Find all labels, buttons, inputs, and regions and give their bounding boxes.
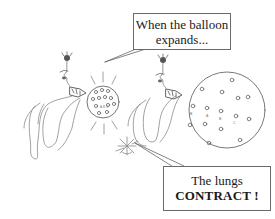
- left-person-figure: [24, 52, 86, 159]
- svg-text:B: B: [190, 112, 193, 116]
- contract-burst: [116, 137, 138, 155]
- expanded-balloon: B A B C: [188, 72, 265, 148]
- svg-text:B: B: [103, 105, 105, 109]
- callout-top-line1: When the balloon: [134, 17, 230, 32]
- balloon-expands-callout: When the balloon expands...: [133, 13, 231, 50]
- callout-top-line2: expands...: [134, 32, 230, 47]
- svg-text:A: A: [206, 114, 209, 118]
- svg-text:A: A: [100, 105, 102, 109]
- callout-bottom-line2: CONTRACT !: [164, 188, 270, 203]
- svg-text:B: B: [219, 117, 222, 121]
- callout-bottom-line1: The lungs: [164, 173, 270, 188]
- small-balloon: A B C: [87, 72, 119, 134]
- svg-text:C: C: [106, 105, 109, 109]
- bottom-callout-tail: [135, 143, 184, 168]
- right-person-figure: [128, 54, 182, 146]
- lungs-contract-callout: The lungs CONTRACT !: [163, 166, 271, 211]
- svg-text:C: C: [233, 121, 236, 125]
